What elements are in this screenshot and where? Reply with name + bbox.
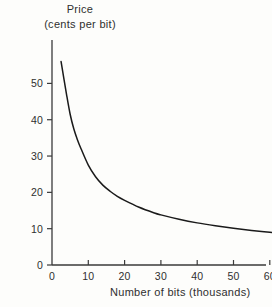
- y-tick-label: 40: [31, 114, 43, 126]
- x-axis-title: Number of bits (thousands): [110, 286, 250, 298]
- chart-figure: Price (cents per bit) 01020304050 010203…: [0, 0, 272, 307]
- y-tick-label: 30: [31, 150, 43, 162]
- x-tick-label: 0: [49, 270, 55, 282]
- y-tick-label: 50: [31, 77, 43, 89]
- x-tick-label: 50: [227, 270, 239, 282]
- plot-area: 01020304050 010203040506070: [0, 0, 272, 307]
- x-axis-ticks: 010203040506070: [49, 260, 272, 282]
- x-tick-label: 40: [191, 270, 203, 282]
- y-tick-label: 0: [37, 259, 43, 271]
- y-tick-label: 20: [31, 186, 43, 198]
- y-axis-ticks: 01020304050: [31, 77, 52, 271]
- x-tick-label: 60: [264, 270, 272, 282]
- x-tick-label: 20: [119, 270, 131, 282]
- y-tick-label: 10: [31, 223, 43, 235]
- price-curve: [61, 62, 272, 237]
- x-tick-label: 30: [155, 270, 167, 282]
- x-tick-label: 10: [82, 270, 94, 282]
